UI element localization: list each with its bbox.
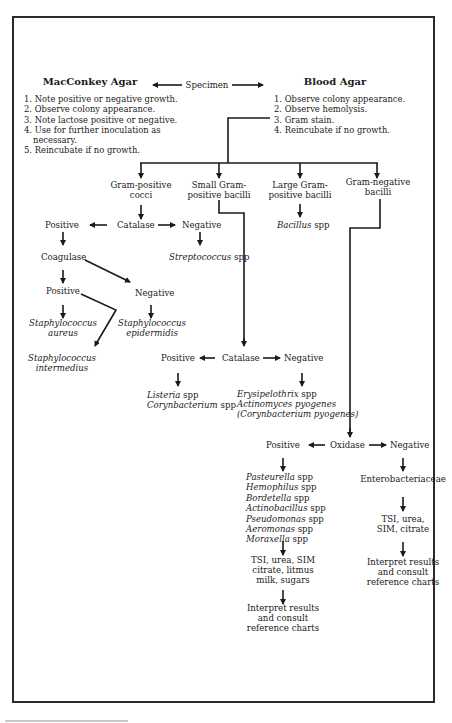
organism: (Corynbacterium pyogenes) — [237, 409, 358, 419]
catalase-positive-results: Listeria spp Corynbacterium spp — [147, 390, 236, 410]
oxidase-label: Oxidase — [330, 440, 365, 450]
blood-agar-steps: 1. Observe colony appearance. 2. Observe… — [274, 94, 405, 135]
species-line: intermedius — [27, 363, 97, 373]
suffix: spp — [231, 252, 249, 262]
staphylococcus-aureus: Staphylococcus aureus — [28, 318, 98, 338]
staphylococcus-epidermidis: Staphylococcus epidermidis — [116, 318, 188, 338]
footer-rule — [5, 720, 128, 722]
macconkey-steps: 1. Note positive or negative growth. 2. … — [24, 94, 178, 156]
genus: Streptococcus — [169, 252, 231, 262]
catalase-negative-results: Erysipelothrix spp Actinomyces pyogenes … — [237, 389, 358, 420]
bacilli-catalase-negative: Negative — [284, 353, 323, 363]
coagulase-positive: Positive — [46, 286, 80, 296]
test-line: citrate, litmus — [243, 565, 323, 575]
species-line: Staphylococcus — [27, 353, 97, 363]
coagulase-label: Coagulase — [41, 252, 86, 262]
blood-agar-title: Blood Agar — [290, 77, 380, 87]
bacillus-result: Bacillus spp — [277, 220, 330, 230]
oxidase-positive-results: Pasteurella spp Hemophilus spp Bordetell… — [246, 472, 326, 545]
oxidase-positive-tests: TSI, urea, SIM citrate, litmus milk, sug… — [243, 555, 323, 586]
cocci-catalase-positive: Positive — [45, 220, 79, 230]
organism: Bordetella spp — [246, 493, 326, 503]
test-line: SIM, citrate — [363, 524, 443, 534]
branch-line: Small Gram- — [179, 180, 259, 190]
branch-line: bacilli — [336, 187, 420, 197]
organism: Hemophilus spp — [246, 482, 326, 492]
blood-agar-step: 3. Gram stain. — [274, 115, 405, 125]
staphylococcus-intermedius: Staphylococcus intermedius — [27, 353, 97, 373]
organism: Actinomyces pyogenes — [237, 399, 358, 409]
organism: Aeromonas spp — [246, 524, 326, 534]
oxidase-negative-interpret: Interpret results and consult reference … — [360, 557, 446, 588]
blood-agar-step: 1. Observe colony appearance. — [274, 94, 405, 104]
species-line: epidermidis — [116, 328, 188, 338]
small-gram-positive-bacilli: Small Gram- positive bacilli — [179, 180, 259, 200]
test-line: TSI, urea, SIM — [243, 555, 323, 565]
blood-agar-step: 4. Reincubate if no growth. — [274, 125, 405, 135]
enterobacteriaceae-label: Enterobacteriaceae — [358, 474, 448, 484]
oxidase-negative: Negative — [390, 440, 429, 450]
organism: Listeria spp — [147, 390, 236, 400]
macconkey-step: necessary. — [24, 135, 178, 145]
gram-negative-bacilli: Gram-negative bacilli — [336, 177, 420, 197]
branch-line: Gram-negative — [336, 177, 420, 187]
interpret-line: Interpret results — [240, 603, 326, 613]
macconkey-agar-title: MacConkey Agar — [40, 77, 140, 87]
interpret-line: reference charts — [360, 577, 446, 587]
organism: Actinobacillus spp — [246, 503, 326, 513]
organism: Pseudomonas spp — [246, 514, 326, 524]
genus: Bacillus — [277, 220, 311, 230]
organism: Pasteurella spp — [246, 472, 326, 482]
oxidase-positive: Positive — [266, 440, 300, 450]
interpret-line: reference charts — [240, 623, 326, 633]
test-line: milk, sugars — [243, 575, 323, 585]
cocci-catalase-negative: Negative — [182, 220, 221, 230]
macconkey-step: 2. Observe colony appearance. — [24, 104, 178, 114]
organism: Erysipelothrix spp — [237, 389, 358, 399]
cocci-catalase: Catalase — [117, 220, 155, 230]
species-line: Staphylococcus — [28, 318, 98, 328]
branch-line: positive bacilli — [179, 190, 259, 200]
interpret-line: Interpret results — [360, 557, 446, 567]
bacilli-catalase: Catalase — [222, 353, 260, 363]
streptococcus-result: Streptococcus spp — [169, 252, 249, 262]
species-line: aureus — [28, 328, 98, 338]
branch-line: positive bacilli — [260, 190, 340, 200]
macconkey-step: 1. Note positive or negative growth. — [24, 94, 178, 104]
large-gram-positive-bacilli: Large Gram- positive bacilli — [260, 180, 340, 200]
bacilli-catalase-positive: Positive — [161, 353, 195, 363]
branch-line: cocci — [101, 190, 181, 200]
test-line: TSI, urea, — [363, 514, 443, 524]
specimen-label: Specimen — [183, 80, 231, 90]
organism: Moraxella spp — [246, 534, 326, 544]
macconkey-step: 4. Use for further inoculation as — [24, 125, 178, 135]
species-line: Staphylococcus — [116, 318, 188, 328]
oxidase-positive-interpret: Interpret results and consult reference … — [240, 603, 326, 634]
organism: Corynbacterium spp — [147, 400, 236, 410]
coagulase-negative: Negative — [135, 288, 174, 298]
branch-line: Large Gram- — [260, 180, 340, 190]
gram-positive-cocci: Gram-positive cocci — [101, 180, 181, 200]
suffix: spp — [311, 220, 329, 230]
branch-line: Gram-positive — [101, 180, 181, 190]
blood-agar-step: 2. Observe hemolysis. — [274, 104, 405, 114]
macconkey-step: 5. Reincubate if no growth. — [24, 145, 178, 155]
macconkey-step: 3. Note lactose positive or negative. — [24, 115, 178, 125]
oxidase-negative-tests: TSI, urea, SIM, citrate — [363, 514, 443, 534]
interpret-line: and consult — [240, 613, 326, 623]
interpret-line: and consult — [360, 567, 446, 577]
